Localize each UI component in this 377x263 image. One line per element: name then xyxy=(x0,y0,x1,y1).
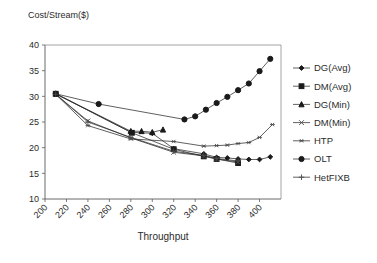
y-tick-label: 40 xyxy=(29,40,39,50)
marker-circle xyxy=(225,94,230,99)
x-tick-label: 360 xyxy=(203,202,221,220)
marker-circle xyxy=(193,114,198,119)
legend-item-label[interactable]: HetFIXB xyxy=(314,172,350,183)
legend-item-label[interactable]: HTP xyxy=(314,135,333,146)
marker-triangle xyxy=(150,129,155,134)
legend-item-label[interactable]: DG(Min) xyxy=(314,99,350,110)
marker-circle xyxy=(203,107,208,112)
legend-item-label[interactable]: DG(Avg) xyxy=(314,62,351,73)
legend-item-label[interactable]: DM(Min) xyxy=(314,117,350,128)
marker-circle xyxy=(268,56,273,61)
marker-circle xyxy=(214,100,219,105)
chart-figure: Cost/Stream($)10152025303540200220240260… xyxy=(0,0,377,263)
marker-triangle xyxy=(128,128,133,133)
line-chart: Cost/Stream($)10152025303540200220240260… xyxy=(0,0,377,263)
x-tick-label: 340 xyxy=(182,202,200,220)
y-tick-label: 35 xyxy=(29,66,39,76)
series-line-dmmin xyxy=(56,94,238,162)
x-tick-label: 260 xyxy=(96,202,114,220)
y-tick-label: 20 xyxy=(29,143,39,153)
legend-item-label[interactable]: OLT xyxy=(314,153,332,164)
x-tick-label: 400 xyxy=(246,202,264,220)
y-tick-label: 30 xyxy=(29,92,39,102)
marker-circle xyxy=(182,117,187,122)
x-tick-label: 240 xyxy=(75,202,93,220)
x-tick-label: 280 xyxy=(118,202,136,220)
legend-item-label[interactable]: DM(Avg) xyxy=(314,81,351,92)
marker-triangle xyxy=(139,128,144,133)
marker-circle xyxy=(246,81,251,86)
x-tick-label: 220 xyxy=(53,202,71,220)
marker-circle xyxy=(235,88,240,93)
marker-circle xyxy=(299,156,304,161)
series-line-dmavg xyxy=(56,94,238,163)
marker-triangle xyxy=(299,102,304,107)
y-axis-title: Cost/Stream($) xyxy=(28,10,89,20)
x-tick-label: 320 xyxy=(160,202,178,220)
x-tick-label: 380 xyxy=(225,202,243,220)
marker-triangle xyxy=(160,127,165,132)
y-tick-label: 15 xyxy=(29,169,39,179)
marker-square xyxy=(299,84,304,89)
x-tick-label: 300 xyxy=(139,202,157,220)
series-line-hetfixb xyxy=(56,94,238,161)
marker-diamond xyxy=(268,155,273,160)
y-tick-label: 10 xyxy=(29,194,39,204)
marker-diamond xyxy=(246,157,251,162)
x-tick-label: 200 xyxy=(32,202,50,220)
marker-circle xyxy=(257,69,262,74)
x-axis-title: Throughput xyxy=(137,231,188,242)
marker-diamond xyxy=(299,66,304,71)
marker-diamond xyxy=(257,157,262,162)
marker-circle xyxy=(96,101,101,106)
y-tick-label: 25 xyxy=(29,117,39,127)
